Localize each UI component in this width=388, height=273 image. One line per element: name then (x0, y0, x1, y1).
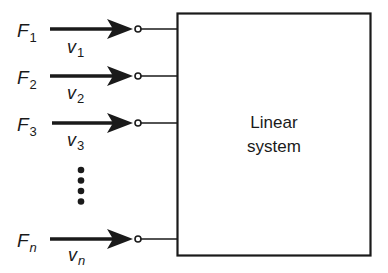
force-label-2: F2 (17, 67, 37, 92)
port-terminal-icon (135, 73, 141, 79)
linear-system-diagram: Linear system F1 v1 F2 v2 F3 v3 Fn (0, 0, 388, 273)
force-label-1: F1 (17, 20, 37, 45)
velocity-label-2: v2 (67, 83, 84, 106)
port-terminal-icon (135, 120, 141, 126)
input-port-1: F1 v1 (17, 19, 178, 60)
system-box (178, 14, 371, 256)
force-label-3: F3 (17, 114, 37, 139)
velocity-label-3: v3 (67, 130, 84, 153)
force-label-n: Fn (17, 230, 37, 255)
port-terminal-icon (135, 26, 141, 32)
velocity-label-1: v1 (67, 37, 84, 60)
system-label-line2: system (247, 137, 301, 156)
system-label-line1: Linear (250, 113, 298, 132)
input-port-2: F2 v2 (17, 66, 178, 106)
input-port-3: F3 v3 (17, 113, 178, 153)
linear-system-block: Linear system (178, 14, 371, 256)
velocity-label-n: vn (68, 245, 85, 268)
vertical-ellipsis-icon (78, 167, 85, 205)
input-port-n: Fn vn (17, 229, 178, 268)
port-terminal-icon (135, 236, 141, 242)
